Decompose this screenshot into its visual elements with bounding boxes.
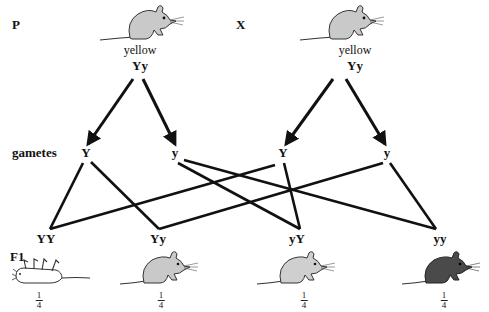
line-Y1-to-YY [50, 163, 83, 229]
arrow-p2-to-y [346, 79, 385, 144]
offspring-1-fraction: 1 4 [36, 291, 43, 310]
parental-generation-label: P [12, 17, 20, 33]
offspring-3-fraction: 1 4 [301, 291, 308, 310]
gamete-parent-2-Y: Y [278, 145, 287, 161]
offspring-3-yellow-mouse-icon [255, 250, 337, 286]
fraction-denominator: 4 [36, 301, 43, 310]
offspring-2-fraction: 1 4 [158, 291, 165, 310]
gamete-parent-1-Y: Y [81, 145, 90, 161]
offspring-1-genotype: YY [37, 231, 56, 247]
line-Y1-to-Yy [91, 162, 159, 229]
fraction-denominator: 4 [158, 301, 165, 310]
parent-1-mouse-icon [98, 2, 186, 42]
fraction-denominator: 4 [441, 301, 448, 310]
line-Y2-to-yY [284, 163, 300, 229]
offspring-2-genotype: Yy [150, 231, 166, 247]
fraction-denominator: 4 [301, 301, 308, 310]
offspring-4-genotype: yy [434, 231, 447, 247]
parent-2-mouse-icon [298, 2, 386, 42]
parent-1-phenotype: yellow [124, 43, 157, 58]
line-y2-to-Yy [159, 163, 383, 229]
gametes-label: gametes [12, 145, 57, 161]
arrow-p1-to-y [143, 79, 175, 144]
line-y1-to-yy [184, 160, 436, 229]
arrow-p2-to-Y [286, 79, 333, 144]
offspring-1-dead-mouse-icon [10, 256, 92, 286]
offspring-3-genotype: yY [289, 231, 305, 247]
gamete-parent-2-y: y [384, 145, 391, 161]
arrow-p1-to-Y [88, 79, 133, 144]
parent-1-genotype: Yy [132, 58, 148, 74]
offspring-4-fraction: 1 4 [441, 291, 448, 310]
parent-2-genotype: Yy [347, 58, 363, 74]
parent-2-phenotype: yellow [339, 43, 372, 58]
cross-symbol: X [236, 17, 245, 33]
gamete-parent-1-y: y [172, 145, 179, 161]
offspring-2-yellow-mouse-icon [118, 250, 200, 286]
offspring-4-dark-mouse-icon [400, 250, 484, 286]
